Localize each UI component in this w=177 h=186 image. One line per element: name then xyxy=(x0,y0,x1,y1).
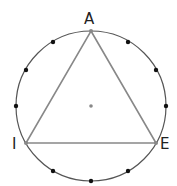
division-point xyxy=(14,104,18,108)
vertex-label-i: I xyxy=(12,135,16,153)
division-point xyxy=(89,179,93,183)
circle-division-points xyxy=(14,40,168,183)
circle-triangle-figure: A E I xyxy=(0,0,177,186)
center-point xyxy=(89,104,93,108)
vertex-point xyxy=(154,141,158,145)
division-point xyxy=(164,104,168,108)
vertex-label-a: A xyxy=(84,10,95,28)
diagram-canvas: A E I xyxy=(0,0,177,186)
division-point xyxy=(154,68,158,72)
division-point xyxy=(126,40,130,44)
division-point xyxy=(51,169,55,173)
division-point xyxy=(126,169,130,173)
vertex-point xyxy=(24,141,28,145)
division-point xyxy=(24,68,28,72)
vertex-label-e: E xyxy=(160,135,169,153)
inscribed-triangle xyxy=(26,31,156,143)
division-point xyxy=(51,40,55,44)
vertex-point xyxy=(89,29,93,33)
triangle-vertices xyxy=(24,29,158,145)
